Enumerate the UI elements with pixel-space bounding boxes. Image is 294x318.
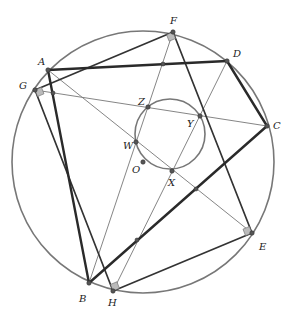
label-B: B — [78, 293, 86, 304]
intersection-point — [135, 238, 139, 242]
intersection-point — [51, 91, 55, 95]
label-C: C — [273, 120, 281, 131]
label-D: D — [232, 48, 241, 59]
label-Z: Z — [137, 96, 146, 107]
point-H — [111, 289, 115, 293]
segment-GC — [35, 90, 267, 126]
label-X: X — [167, 177, 176, 188]
point-D — [225, 59, 229, 63]
point-C — [265, 124, 269, 128]
label-F: F — [169, 15, 178, 26]
geometry-diagram: AFDGCZYWOXEBH — [0, 0, 294, 318]
intersection-point — [194, 187, 198, 191]
inner-circle-wxyz — [135, 99, 205, 169]
segment-DC — [227, 61, 267, 126]
segment-EH — [113, 233, 252, 291]
point-W — [134, 140, 138, 144]
point-E — [250, 231, 254, 235]
segment-GF — [35, 32, 173, 90]
label-H: H — [107, 297, 117, 308]
point-F — [171, 30, 175, 34]
quadrilateral-abcd — [48, 61, 267, 283]
segment-AD — [48, 61, 227, 70]
point-G — [33, 88, 37, 92]
point-A — [46, 68, 50, 72]
point-X — [170, 169, 174, 173]
label-E: E — [258, 241, 267, 252]
label-A: A — [37, 56, 45, 67]
point-labels: AFDGCZYWOXEBH — [19, 15, 281, 308]
point-O — [141, 160, 145, 164]
point-Z — [146, 105, 150, 109]
intersection-point — [161, 62, 165, 66]
segment-HG — [35, 90, 113, 291]
point-B — [87, 281, 91, 285]
point-Y — [198, 114, 202, 118]
segment-AE — [48, 70, 252, 233]
label-W: W — [123, 140, 134, 151]
label-G: G — [19, 80, 27, 91]
segment-BA — [48, 70, 89, 283]
label-O: O — [132, 164, 140, 175]
